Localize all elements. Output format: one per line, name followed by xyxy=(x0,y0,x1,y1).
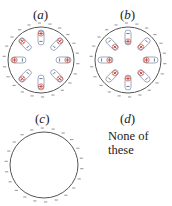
paren-close: ) xyxy=(131,111,135,126)
sphere-with-dipoles-inward-icon xyxy=(86,0,172,103)
none-of-these-text: None of these xyxy=(108,129,149,157)
empty-charged-sphere-icon xyxy=(0,103,86,206)
option-d-label: (d) xyxy=(120,111,135,127)
text-line-2: these xyxy=(108,143,149,157)
option-d-panel[interactable]: (d) None of these xyxy=(86,103,172,206)
option-b-panel[interactable]: (b) xyxy=(86,0,172,103)
text-line-1: None of xyxy=(108,129,149,143)
sphere-with-dipoles-outward-icon xyxy=(0,0,86,103)
option-a-panel[interactable]: (a) xyxy=(0,0,86,103)
option-c-panel[interactable]: (c) xyxy=(0,103,86,206)
